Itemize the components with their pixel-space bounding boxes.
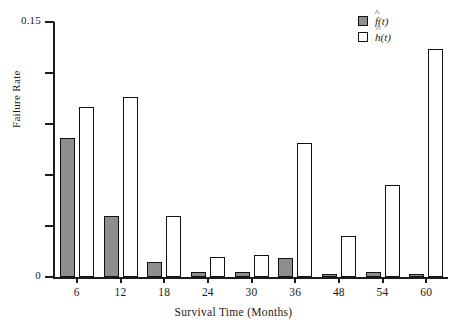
y-axis-title: Failure Rate xyxy=(10,108,22,128)
x-axis-label-24: 24 xyxy=(188,286,228,298)
bar-h-hat-t-24 xyxy=(210,257,225,277)
y-axis-tick xyxy=(45,72,54,74)
bar-group xyxy=(104,22,138,277)
bar-f-hat-t-36 xyxy=(278,258,293,277)
x-axis-tick xyxy=(294,279,296,283)
x-axis-label-18: 18 xyxy=(144,286,184,298)
x-axis-tick xyxy=(207,279,209,283)
bar-group xyxy=(60,22,94,277)
x-axis-tick xyxy=(382,279,384,283)
bar-group xyxy=(278,22,312,277)
legend-item-f: f(t) xyxy=(358,14,391,28)
legend-swatch-h-hat xyxy=(358,32,368,42)
y-axis-tick xyxy=(45,225,54,227)
bar-h-hat-t-48 xyxy=(341,236,356,277)
y-axis-tick: 0.15 xyxy=(45,21,54,23)
bar-h-hat-t-12 xyxy=(123,97,138,277)
x-axis-label-6: 6 xyxy=(57,286,97,298)
x-axis-tick xyxy=(251,279,253,283)
legend-label-h: h(t) xyxy=(375,31,391,43)
bar-f-hat-t-24 xyxy=(191,272,206,277)
bar-f-hat-t-48 xyxy=(322,274,337,277)
bar-f-hat-t-12 xyxy=(104,216,119,277)
y-axis-tick-label: 0.15 xyxy=(21,14,41,26)
bar-f-hat-t-6 xyxy=(60,138,75,277)
x-axis-label-54: 54 xyxy=(363,286,403,298)
bar-f-hat-t-60 xyxy=(409,274,424,277)
bar-f-hat-t-30 xyxy=(235,272,250,277)
x-axis-tick xyxy=(425,279,427,283)
x-axis-tick xyxy=(163,279,165,283)
failure-rate-bar-chart: 00.15 Failure Rate 61218243036485460 Sur… xyxy=(0,0,467,330)
bar-group xyxy=(147,22,181,277)
bar-h-hat-t-6 xyxy=(79,107,94,277)
bar-h-hat-t-54 xyxy=(385,185,400,277)
bar-f-hat-t-54 xyxy=(366,272,381,277)
bar-h-hat-t-60 xyxy=(428,49,443,277)
legend-swatch-f-hat xyxy=(358,16,368,26)
bar-group xyxy=(235,22,269,277)
y-axis-tick-label: 0 xyxy=(35,269,41,281)
bar-group xyxy=(322,22,356,277)
x-axis-label-30: 30 xyxy=(232,286,272,298)
plot-area xyxy=(55,22,448,277)
chart-legend: f(t)h(t) xyxy=(358,14,391,46)
x-axis-tick xyxy=(76,279,78,283)
bar-group xyxy=(191,22,225,277)
x-axis-title: Survival Time (Months) xyxy=(0,306,467,318)
bar-f-hat-t-18 xyxy=(147,262,162,277)
x-axis-tick xyxy=(338,279,340,283)
bar-group xyxy=(366,22,400,277)
y-axis-tick: 0 xyxy=(45,276,54,278)
x-axis-label-48: 48 xyxy=(319,286,359,298)
x-axis-label-36: 36 xyxy=(275,286,315,298)
bar-h-hat-t-30 xyxy=(254,255,269,277)
bar-group xyxy=(409,22,443,277)
y-axis-tick xyxy=(45,174,54,176)
legend-item-h: h(t) xyxy=(358,30,391,44)
y-axis-tick xyxy=(45,123,54,125)
bar-h-hat-t-18 xyxy=(166,216,181,277)
x-axis-label-60: 60 xyxy=(406,286,446,298)
bar-h-hat-t-36 xyxy=(297,143,312,277)
x-axis-label-12: 12 xyxy=(101,286,141,298)
x-axis-tick xyxy=(120,279,122,283)
